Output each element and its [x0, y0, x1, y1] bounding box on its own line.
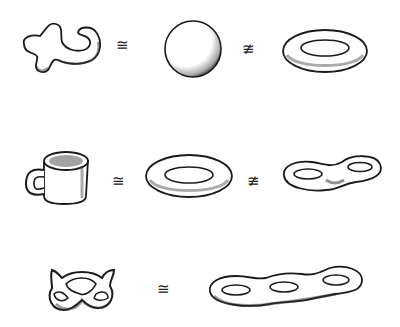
double-torus-shape	[280, 150, 384, 196]
homeomorphic-symbol: ≅	[112, 174, 125, 189]
homeomorphic-symbol: ≅	[157, 282, 170, 297]
not-homeomorphic-symbol: ≇	[247, 174, 260, 189]
relation-label: ≅	[112, 172, 125, 190]
not-homeomorphic-symbol: ≇	[242, 42, 255, 57]
pretzel-shape	[44, 264, 120, 316]
coffee-mug-shape	[22, 150, 92, 206]
relation-label: ≅	[116, 36, 129, 54]
relation-label: ≇	[242, 40, 255, 58]
blob-shape	[18, 22, 104, 74]
triple-torus-shape	[206, 262, 366, 312]
relation-label: ≇	[247, 172, 260, 190]
sphere-shape	[163, 18, 223, 80]
relation-label: ≅	[157, 280, 170, 298]
homeomorphic-symbol: ≅	[116, 38, 129, 53]
torus-shape	[144, 152, 234, 200]
torus-shape	[281, 27, 369, 75]
